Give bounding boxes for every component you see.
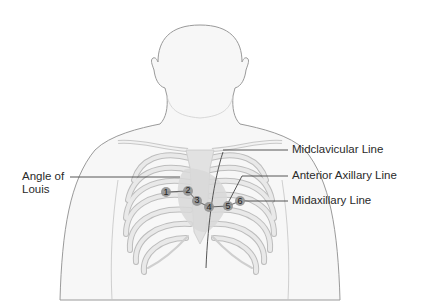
svg-text:4: 4 <box>206 202 211 212</box>
svg-text:2: 2 <box>185 185 190 195</box>
svg-text:1: 1 <box>163 187 168 197</box>
angle-of-louis-label: Angle of Louis <box>22 170 64 196</box>
angle-of-louis-line1: Angle of <box>22 170 64 183</box>
electrode-v4[interactable]: 4 <box>204 202 214 212</box>
midclavicular-line-label: Midclavicular Line <box>292 143 383 156</box>
svg-text:6: 6 <box>237 196 242 206</box>
electrode-v1[interactable]: 1 <box>161 187 171 197</box>
ecg-lead-placement-diagram: 1 2 3 4 5 6 Angle of <box>0 0 423 307</box>
svg-text:3: 3 <box>194 195 199 205</box>
angle-of-louis-line2: Louis <box>22 183 64 196</box>
electrode-v5[interactable]: 5 <box>223 201 233 211</box>
electrode-v6[interactable]: 6 <box>235 196 245 206</box>
midaxillary-line-label: Midaxillary Line <box>292 194 371 207</box>
anterior-axillary-line-label: Anterior Axillary Line <box>292 169 397 182</box>
svg-text:5: 5 <box>225 201 230 211</box>
